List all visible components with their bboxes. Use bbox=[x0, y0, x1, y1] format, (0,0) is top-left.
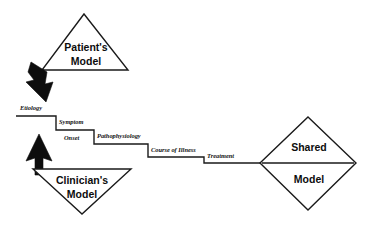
node-clinicians-model[interactable]: Clinician's Model bbox=[33, 169, 131, 214]
edge-label-symptom: Symptom bbox=[59, 118, 84, 125]
explanatory-model-diagram: Patient's Model Etiology Symptom Onset P… bbox=[0, 0, 366, 228]
edge-label-treatment: Treatment bbox=[207, 152, 234, 159]
shared-model-label-line1: Shared bbox=[291, 141, 327, 153]
staircase-path bbox=[16, 116, 292, 163]
patients-model-label-line1: Patient's bbox=[64, 41, 108, 53]
node-patients-model[interactable]: Patient's Model bbox=[42, 14, 128, 70]
node-shared-model[interactable]: Shared Model bbox=[260, 117, 356, 210]
diagram-canvas: Patient's Model Etiology Symptom Onset P… bbox=[0, 0, 366, 228]
patients-model-label-line2: Model bbox=[71, 55, 101, 67]
edge-label-pathophysiology: Pathophysiology bbox=[97, 132, 141, 139]
edge-label-course-of-illness: Course of Illness bbox=[151, 146, 196, 153]
shared-model-label-line2: Model bbox=[294, 173, 324, 185]
edge-label-onset: Onset bbox=[64, 134, 79, 141]
clinicians-model-label-line2: Model bbox=[67, 188, 97, 200]
staircase-connector bbox=[16, 116, 294, 166]
edge-label-etiology: Etiology bbox=[19, 104, 42, 111]
clinicians-model-label-line1: Clinician's bbox=[56, 174, 108, 186]
